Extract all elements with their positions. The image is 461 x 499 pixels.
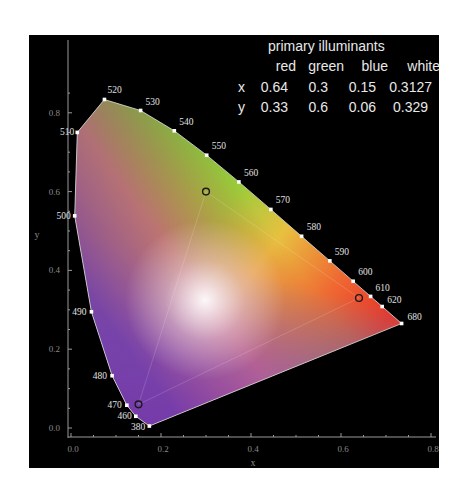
header-blue: blue [344, 58, 388, 74]
y-tick-label: 0.4 [49, 265, 61, 275]
x-tick-label: 0.0 [67, 444, 79, 454]
wavelength-label: 600 [358, 267, 373, 277]
y-tick-label: 0.6 [49, 187, 61, 197]
wavelength-label: 560 [244, 168, 259, 178]
wavelength-point [110, 374, 114, 378]
wavelength-point [75, 131, 79, 135]
x-tick-label: 0.8 [427, 444, 439, 454]
header-white: white [388, 58, 440, 74]
header-green: green [296, 58, 344, 74]
table-title: primary illuminants [268, 38, 438, 54]
wavelength-label: 460 [118, 411, 133, 421]
wavelength-point [300, 234, 304, 238]
wavelength-point [134, 414, 138, 418]
wavelength-label: 680 [408, 312, 423, 322]
cell: 0.6 [288, 99, 328, 115]
wavelength-label: 610 [376, 283, 391, 293]
y-tick-label: 0.0 [49, 423, 61, 433]
table-row-y: y 0.33 0.6 0.06 0.329 [238, 99, 428, 115]
cell: 0.15 [328, 79, 376, 95]
wavelength-label: 550 [212, 141, 227, 151]
wavelength-point [148, 424, 152, 428]
wavelength-label: 530 [146, 97, 161, 107]
row-label: x [238, 79, 248, 95]
chromaticity-chart: 0.00.20.40.60.80.00.20.40.60.8xy 3804604… [0, 0, 461, 499]
table-header-row: red green blue white [238, 58, 440, 74]
y-tick-label: 0.8 [49, 108, 61, 118]
wavelength-label: 590 [335, 247, 350, 257]
wavelength-point [173, 129, 177, 133]
wavelength-label: 620 [387, 295, 402, 305]
x-tick-label: 0.2 [157, 444, 168, 454]
wavelength-label: 510 [60, 127, 75, 137]
row-label: y [238, 99, 248, 115]
wavelength-point [205, 153, 209, 157]
cell: 0.64 [248, 79, 288, 95]
header-red: red [256, 58, 296, 74]
wavelength-label: 570 [276, 195, 291, 205]
wavelength-point [73, 214, 77, 218]
wavelength-label: 580 [307, 222, 322, 232]
wavelength-point [125, 403, 129, 407]
wavelength-label: 480 [93, 371, 108, 381]
wavelength-point [400, 322, 404, 326]
cell: 0.3127 [376, 79, 432, 95]
wavelength-point [351, 279, 355, 283]
wavelength-point [237, 180, 241, 184]
wavelength-label: 490 [72, 307, 87, 317]
y-tick-label: 0.2 [49, 344, 60, 354]
table-row-x: x 0.64 0.3 0.15 0.3127 [238, 79, 432, 95]
cell: 0.06 [328, 99, 376, 115]
wavelength-label: 520 [107, 85, 122, 95]
cell: 0.3 [288, 79, 328, 95]
header-cell [238, 58, 256, 74]
x-tick-label: 0.4 [247, 444, 259, 454]
y-axis-label: y [35, 229, 40, 240]
wavelength-label: 380 [131, 422, 146, 432]
x-tick-label: 0.6 [337, 444, 349, 454]
wavelength-label: 500 [56, 211, 71, 221]
wavelength-point [380, 305, 384, 309]
x-axis-label: x [251, 457, 256, 468]
wavelength-point [139, 109, 143, 113]
cell: 0.33 [248, 99, 288, 115]
wavelength-point [328, 259, 332, 263]
wavelength-label: 470 [108, 400, 123, 410]
wavelength-point [269, 208, 273, 212]
wavelength-point [103, 98, 107, 102]
wavelength-point [90, 310, 94, 314]
cell: 0.329 [376, 99, 428, 115]
wavelength-point [369, 295, 373, 299]
wavelength-label: 540 [179, 117, 194, 127]
